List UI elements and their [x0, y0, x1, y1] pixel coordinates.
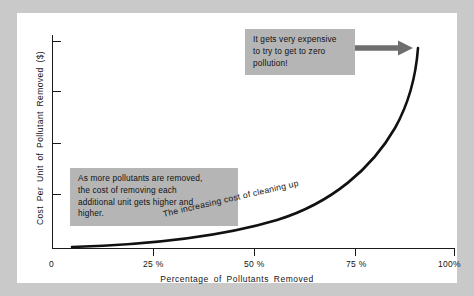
callout-right: It gets very expensive to try to get to …	[245, 29, 355, 75]
callout-left-line-4: higher.	[78, 208, 231, 220]
chart-panel: 0 25 % 50 % 75 % 100% Percentage of Poll…	[17, 13, 457, 283]
callout-right-line-2: to try to get to zero	[253, 46, 348, 58]
plot-area	[17, 13, 457, 283]
callout-right-line-3: pollution!	[253, 58, 348, 70]
callout-left-line-1: As more pollutants are removed,	[78, 173, 231, 185]
callout-right-line-1: It gets very expensive	[253, 34, 348, 46]
callout-left-line-2: the cost of removing each	[78, 185, 231, 197]
pointer-arrow	[348, 41, 413, 56]
